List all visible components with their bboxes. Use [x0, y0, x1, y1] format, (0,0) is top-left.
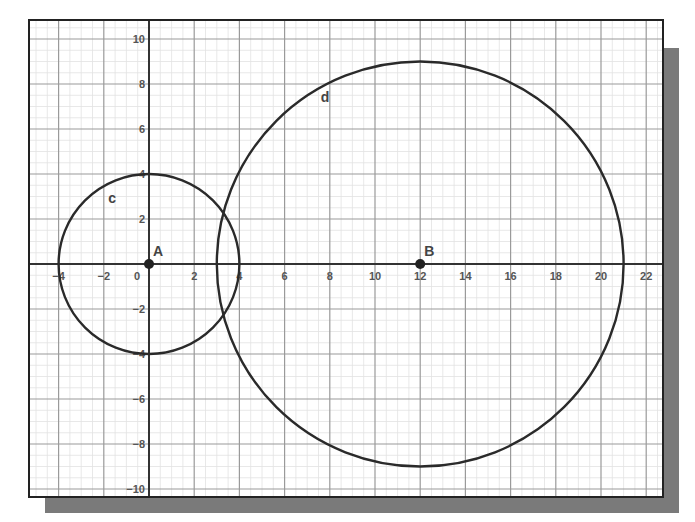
point-label-A: A — [153, 243, 163, 259]
y-tick-label: 8 — [139, 78, 145, 90]
y-tick-label: −2 — [132, 303, 145, 315]
x-tick-label: 20 — [595, 270, 607, 282]
y-tick-label: 6 — [139, 123, 145, 135]
point-A — [144, 259, 154, 269]
y-tick-label: −10 — [126, 483, 145, 495]
point-B — [415, 259, 425, 269]
shadow-bottom — [45, 497, 679, 513]
circle-label-d: d — [321, 89, 330, 105]
x-tick-label: 8 — [327, 270, 333, 282]
circle-label-c: c — [108, 190, 116, 206]
x-tick-label: 18 — [550, 270, 562, 282]
x-tick-label: 14 — [459, 270, 472, 282]
x-tick-label: 12 — [414, 270, 426, 282]
x-tick-label: 16 — [504, 270, 516, 282]
x-tick-label: 2 — [191, 270, 197, 282]
y-tick-label: −6 — [132, 393, 145, 405]
y-tick-label: −8 — [132, 438, 145, 450]
plot-background — [29, 20, 663, 497]
point-label-B: B — [424, 243, 434, 259]
x-tick-label: 10 — [369, 270, 381, 282]
geometry-canvas: −4−20246810121416182022−10−8−6−4−2246810… — [0, 0, 695, 522]
x-tick-label: 22 — [640, 270, 652, 282]
x-tick-label: 6 — [282, 270, 288, 282]
shadow-right — [663, 48, 679, 513]
y-tick-label: 10 — [133, 33, 145, 45]
x-tick-label: 0 — [134, 270, 140, 282]
x-tick-label: −2 — [98, 270, 111, 282]
y-tick-label: 2 — [139, 213, 145, 225]
